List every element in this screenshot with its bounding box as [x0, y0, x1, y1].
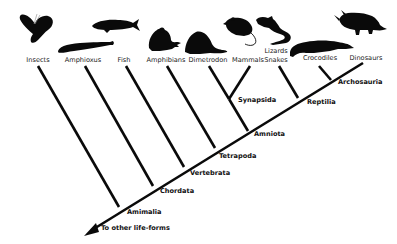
taxon-label-snakes: Snakes [264, 56, 288, 64]
taxon-label-amphioxus: Amphioxus [65, 56, 102, 64]
branch-lizards-snakes [279, 66, 298, 98]
branch-amphibians [167, 66, 215, 148]
taxon-label-dinosaurs: Dinosaurs [350, 54, 383, 62]
branches [38, 66, 331, 207]
lancelet-icon [58, 41, 114, 53]
clade-label-reptilia: Reptilia [307, 98, 336, 106]
taxon-label-lizards: Lizards [264, 47, 288, 55]
fish-icon [92, 19, 140, 33]
clade-label-chordata: Chordata [160, 187, 194, 195]
clade-label-archosauria: Archosauria [338, 78, 383, 86]
branch-dimetrodon [209, 66, 229, 99]
branch-crocodiles [319, 66, 331, 80]
lizard-icon [256, 16, 291, 45]
butterfly-icon [20, 14, 53, 43]
clade-label-synapsida: Synapsida [238, 96, 276, 104]
taxon-label-dimetrodon: Dimetrodon [189, 56, 228, 64]
rat-icon [223, 17, 256, 45]
arrow-head-icon [84, 223, 99, 236]
taxon-label-insects: Insects [26, 56, 50, 64]
root-label: To other life-forms [101, 224, 170, 232]
taxon-label-crocodiles: Crocodiles [303, 54, 338, 62]
branch-mammals [229, 66, 250, 99]
silhouettes [20, 10, 387, 57]
dimetrodon-icon [185, 32, 227, 54]
branch-insects [38, 66, 119, 207]
clade-label-vertebrata: Vertebrata [190, 169, 230, 177]
clade-label-tetrapoda: Tetrapoda [219, 152, 256, 160]
taxon-label-mammals: Mammals [232, 56, 264, 64]
clade-labels: Amimalia Chordata Vertebrata Tetrapoda A… [101, 78, 383, 232]
triceratops-icon [334, 10, 387, 35]
frog-icon [149, 28, 181, 52]
clade-label-amniota: Amniota [254, 130, 285, 138]
phylogenetic-tree: Insects Amphioxus Fish Amphibians Dimetr… [0, 0, 397, 244]
taxon-label-amphibians: Amphibians [147, 56, 186, 64]
clade-label-animalia: Amimalia [127, 208, 162, 216]
taxon-label-fish: Fish [118, 56, 131, 64]
